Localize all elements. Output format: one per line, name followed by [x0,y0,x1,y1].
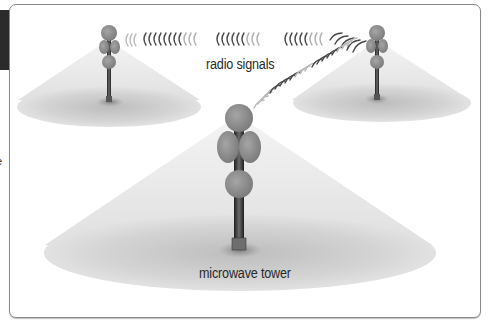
radio-signals-label: radio signals [206,56,274,72]
radio-signal-arcs-top [126,33,366,52]
center-microwave-tower [44,104,436,291]
microwave-tower-label: microwave tower [199,265,291,281]
right-tower [292,25,471,122]
